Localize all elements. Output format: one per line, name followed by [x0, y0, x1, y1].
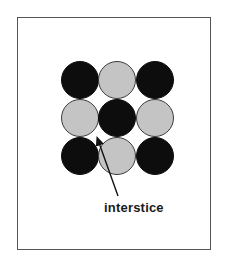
dark-atom: [62, 138, 99, 175]
atom-packing-diagram: [0, 0, 227, 269]
dark-atom: [62, 62, 99, 99]
dark-atom: [99, 100, 136, 137]
light-atom: [99, 62, 136, 99]
interstice-label: interstice: [104, 200, 164, 215]
dark-atom: [137, 138, 174, 175]
light-atom: [62, 100, 99, 137]
atom-grid: [62, 62, 174, 175]
light-atom: [137, 100, 174, 137]
dark-atom: [137, 62, 174, 99]
